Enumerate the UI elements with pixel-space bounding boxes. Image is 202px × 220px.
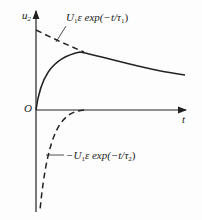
upper-dashed-curve bbox=[36, 30, 84, 52]
label1-leader bbox=[56, 26, 66, 42]
x-axis-label: t bbox=[182, 114, 185, 125]
resultant-solid-curve bbox=[36, 52, 185, 110]
diagram-canvas: u2 t O U1ε exp(−t/τ1) −U1ε exp(−t/τ2) bbox=[0, 0, 202, 220]
origin-label: O bbox=[24, 103, 32, 114]
upper-curve-label: U1ε exp(−t/τ1) bbox=[66, 12, 128, 25]
lower-curve-label: −U1ε exp(−t/τ2) bbox=[66, 150, 136, 163]
y-axis-label: u2 bbox=[22, 10, 31, 23]
